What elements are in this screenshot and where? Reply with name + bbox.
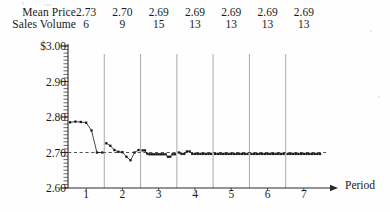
sales-volume-value: 13 [289,18,319,31]
sales-volume-value: 9 [107,18,137,31]
sales-volume-value: 13 [253,18,283,31]
x-axis-tick-label: 7 [292,188,316,200]
x-axis-tick-label: 5 [219,188,243,200]
chart-plot-area: $3.002.902.802.702.60 1234567 Period [0,36,390,212]
x-axis-tick-label: 3 [147,188,171,200]
x-axis-tick-label: 6 [256,188,280,200]
y-axis-tick-label: $3.00 [22,40,66,52]
x-axis-tick-label: 2 [110,188,134,200]
sales-volume-value: 13 [216,18,246,31]
sales-volume-value: 15 [144,18,174,31]
y-axis-tick-label: 2.90 [22,76,66,88]
price-series [69,120,321,161]
period-divider-lines [104,54,285,188]
scan-artifact [22,2,24,5]
y-axis-tick-label: 2.80 [22,111,66,123]
x-axis-tick-label: 4 [183,188,207,200]
sales-volume-value: 13 [180,18,210,31]
sales-volume-row-label: Sales Volume [12,18,76,31]
y-axis-tick-label: 2.60 [22,182,66,194]
summary-table: Mean Price 2.732.702.692.692.692.692.69 … [0,6,390,36]
chart-page: Mean Price 2.732.702.692.692.692.692.69 … [0,0,390,212]
x-axis-arrow-icon [330,185,338,191]
sales-volume-value: 6 [71,18,101,31]
table-row-sales-volume: Sales Volume 691513131313 [0,18,390,31]
x-axis-title: Period [345,179,375,191]
y-axis-tick-label: 2.70 [22,147,66,159]
x-axis-tick-label: 1 [74,188,98,200]
